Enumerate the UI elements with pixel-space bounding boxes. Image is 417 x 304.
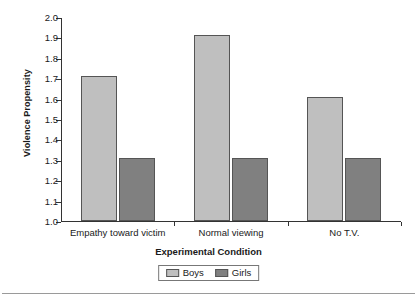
bar-girls-0: [119, 158, 155, 221]
bar-boys-1: [194, 35, 230, 221]
bar-boys-2: [307, 97, 343, 221]
bar-girls-1: [232, 158, 268, 221]
legend-swatch-girls-icon: [215, 269, 228, 277]
x-category-label: Empathy toward victim: [70, 227, 166, 238]
y-tick-label: 1.2: [45, 174, 58, 187]
x-tick-mark: [401, 222, 402, 226]
y-tick-label: 2.0: [45, 11, 58, 24]
y-tick-label: 1.8: [45, 52, 58, 65]
legend-item-girls: Girls: [215, 268, 252, 278]
bar-boys-0: [81, 76, 117, 221]
y-tick-label: 1.1: [45, 195, 58, 208]
legend-label-girls: Girls: [232, 268, 252, 278]
legend-label-boys: Boys: [183, 268, 204, 278]
chart-legend: Boys Girls: [158, 265, 260, 281]
y-tick-label: 1.0: [45, 215, 58, 228]
y-tick-label: 1.7: [45, 72, 58, 85]
y-tick-label: 1.3: [45, 154, 58, 167]
legend-swatch-boys-icon: [166, 269, 179, 277]
x-tick-mark: [288, 222, 289, 226]
y-tick-label: 1.4: [45, 133, 58, 146]
plot-area: 2.01.91.81.71.61.51.41.31.21.11.0: [61, 18, 401, 222]
y-tick-label: 1.9: [45, 31, 58, 44]
x-tick-mark: [174, 222, 175, 226]
x-category-label: No T.V.: [329, 227, 359, 238]
legend-item-boys: Boys: [166, 268, 204, 278]
x-axis-title: Experimental Condition: [0, 246, 417, 257]
bar-girls-2: [345, 158, 381, 221]
x-axis-line: [61, 221, 401, 222]
y-tick-label: 1.6: [45, 93, 58, 106]
chart-figure: Violence Propensity 2.01.91.81.71.61.51.…: [0, 0, 417, 304]
y-tick-label: 1.5: [45, 113, 58, 126]
footer-divider: [2, 293, 415, 294]
y-axis-title: Violence Propensity: [22, 33, 32, 193]
x-category-label: Normal viewing: [199, 227, 264, 238]
y-axis-line: [61, 18, 62, 222]
